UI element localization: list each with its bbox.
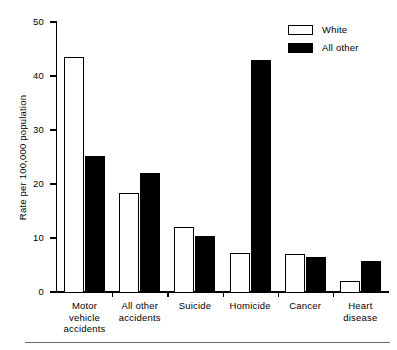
y-axis-tick: [50, 21, 57, 22]
legend-label: White: [322, 24, 347, 35]
category-label-line: Suicide: [167, 300, 222, 312]
category-label-line: Homicide: [223, 300, 278, 312]
y-axis-tick: [50, 75, 57, 76]
bar-white: [340, 281, 360, 292]
legend-swatch-black: [288, 43, 313, 53]
x-axis-group-tick: [112, 292, 113, 297]
bar-all-other: [306, 257, 326, 292]
category-label-line: vehicle: [57, 312, 112, 324]
y-axis-tick: [50, 183, 57, 184]
category-label-line: Heart: [333, 300, 388, 312]
x-axis-category-label: Heartdisease: [333, 300, 388, 323]
x-axis-group-tick: [333, 292, 334, 297]
x-axis-category-label: Homicide: [223, 300, 278, 312]
category-label-line: accidents: [112, 312, 167, 324]
category-label-line: All other: [112, 300, 167, 312]
bar-white: [119, 193, 139, 292]
x-axis-category-label: Motorvehicleaccidents: [57, 300, 112, 335]
y-axis-tick: [50, 129, 57, 130]
bar-white: [285, 254, 305, 292]
legend-item: White: [288, 22, 392, 37]
x-axis-category-label: Cancer: [278, 300, 333, 312]
x-axis-group-tick: [223, 292, 224, 297]
bottom-rule: [25, 342, 390, 343]
x-axis-category-label: All otheraccidents: [112, 300, 167, 323]
y-axis-tick-label: 50: [4, 17, 44, 27]
y-axis-tick-label: 10: [4, 233, 44, 243]
category-label-line: disease: [333, 312, 388, 324]
x-axis-group-tick: [167, 292, 168, 297]
bar-all-other: [361, 261, 381, 292]
y-axis-tick: [50, 237, 57, 238]
y-axis-tick-label: 0: [4, 287, 44, 297]
legend-label: All other: [322, 42, 359, 53]
bar-chart-figure: Rate per 100,000 population 01020304050 …: [0, 0, 397, 350]
category-label-line: Cancer: [278, 300, 333, 312]
y-axis-tick-label: 30: [4, 125, 44, 135]
legend-item: All other: [288, 40, 392, 55]
bar-white: [230, 253, 250, 292]
bar-all-other: [195, 236, 215, 292]
y-axis-tick: [50, 291, 57, 292]
chart-legend: WhiteAll other: [288, 22, 392, 58]
bar-all-other: [140, 173, 160, 292]
category-label-line: Motor: [57, 300, 112, 312]
bar-all-other: [85, 156, 105, 292]
bar-all-other: [251, 60, 271, 292]
legend-swatch-white: [288, 25, 313, 35]
category-label-line: accidents: [57, 323, 112, 335]
x-axis-group-tick: [278, 292, 279, 297]
y-axis-tick-label: 40: [4, 71, 44, 81]
bar-white: [174, 227, 194, 292]
y-axis-tick-label: 20: [4, 179, 44, 189]
x-axis-category-label: Suicide: [167, 300, 222, 312]
bar-white: [64, 57, 84, 292]
plot-area: [57, 22, 388, 292]
